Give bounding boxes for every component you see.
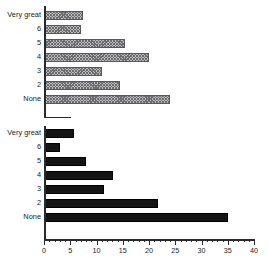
y-axis-line-solid — [44, 126, 46, 240]
category-label: 2 — [0, 196, 41, 210]
category-label: 5 — [0, 36, 41, 50]
x-tick-minor — [196, 239, 197, 242]
x-tick-minor — [144, 239, 145, 242]
bar-track — [44, 168, 269, 182]
bar-solid — [44, 171, 113, 180]
x-tick-minor — [65, 239, 66, 242]
x-tick-major — [228, 239, 229, 245]
bar-row: None — [0, 210, 269, 224]
x-tick-minor — [60, 239, 61, 242]
x-tick-minor — [217, 239, 218, 242]
y-axis-line-hatched — [44, 6, 46, 118]
category-label: 4 — [0, 168, 41, 182]
bar-hatched — [44, 81, 120, 90]
bar-hatched — [44, 39, 125, 48]
bar-chart: Very great65432None Very great65432None … — [0, 0, 269, 262]
category-label: Very great — [0, 126, 41, 140]
bar-row: 2 — [0, 78, 269, 92]
bar-track — [44, 92, 269, 106]
bar-hatched — [44, 67, 102, 76]
x-tick-minor — [133, 239, 134, 242]
bar-solid — [44, 129, 74, 138]
x-tick-label: 30 — [198, 246, 206, 255]
x-tick-minor — [139, 239, 140, 242]
x-tick-major — [254, 239, 255, 245]
x-tick-minor — [212, 239, 213, 242]
bar-solid — [44, 199, 158, 208]
bar-solid — [44, 213, 228, 222]
bar-row: 4 — [0, 50, 269, 64]
x-tick-minor — [81, 239, 82, 242]
bar-row: 3 — [0, 64, 269, 78]
x-tick-major — [44, 239, 45, 245]
bar-hatched — [44, 11, 83, 20]
x-tick-minor — [55, 239, 56, 242]
x-tick-minor — [181, 239, 182, 242]
x-tick-minor — [186, 239, 187, 242]
x-tick-minor — [128, 239, 129, 242]
bar-track — [44, 50, 269, 64]
bar-row: 6 — [0, 22, 269, 36]
category-label: None — [0, 210, 41, 224]
chart-panel-solid: Very great65432None — [0, 126, 269, 238]
x-tick-label: 40 — [250, 246, 258, 255]
x-tick-label: 5 — [68, 246, 72, 255]
category-label: 3 — [0, 64, 41, 78]
x-tick-minor — [249, 239, 250, 242]
x-tick-minor — [170, 239, 171, 242]
x-tick-minor — [112, 239, 113, 242]
bar-track — [44, 196, 269, 210]
x-tick-label: 20 — [145, 246, 153, 255]
x-tick-minor — [107, 239, 108, 242]
bar-row: 3 — [0, 182, 269, 196]
x-tick-minor — [118, 239, 119, 242]
x-tick-minor — [191, 239, 192, 242]
bar-hatched — [44, 25, 81, 34]
x-tick-major — [175, 239, 176, 245]
bar-track — [44, 210, 269, 224]
x-tick-label: 25 — [171, 246, 179, 255]
bar-hatched — [44, 53, 149, 62]
bar-track — [44, 154, 269, 168]
chart-panel-hatched: Very great65432None — [0, 8, 269, 116]
category-label: None — [0, 92, 41, 106]
x-tick-minor — [233, 239, 234, 242]
x-tick-major — [97, 239, 98, 245]
bar-track — [44, 8, 269, 22]
bar-track — [44, 140, 269, 154]
bar-track — [44, 182, 269, 196]
x-tick-major — [149, 239, 150, 245]
category-label: 6 — [0, 140, 41, 154]
x-tick-minor — [160, 239, 161, 242]
category-label: 3 — [0, 182, 41, 196]
bar-hatched — [44, 95, 170, 104]
bar-track — [44, 22, 269, 36]
category-label: 6 — [0, 22, 41, 36]
x-tick-minor — [154, 239, 155, 242]
x-tick-label: 15 — [119, 246, 127, 255]
bar-track — [44, 64, 269, 78]
category-label: 2 — [0, 78, 41, 92]
x-tick-minor — [223, 239, 224, 242]
x-tick-label: 10 — [93, 246, 101, 255]
category-label: 4 — [0, 50, 41, 64]
bar-track — [44, 78, 269, 92]
bar-row: Very great — [0, 126, 269, 140]
bar-solid — [44, 143, 60, 152]
x-tick-minor — [238, 239, 239, 242]
bar-track — [44, 126, 269, 140]
x-tick-major — [202, 239, 203, 245]
bar-row: None — [0, 92, 269, 106]
x-tick-minor — [49, 239, 50, 242]
x-tick-minor — [165, 239, 166, 242]
x-tick-major — [70, 239, 71, 245]
x-tick-minor — [76, 239, 77, 242]
x-tick-major — [123, 239, 124, 245]
bar-solid — [44, 157, 86, 166]
bar-row: Very great — [0, 8, 269, 22]
bar-solid — [44, 185, 104, 194]
x-tick-minor — [207, 239, 208, 242]
bar-row: 2 — [0, 196, 269, 210]
x-tick-minor — [244, 239, 245, 242]
bar-row: 4 — [0, 168, 269, 182]
